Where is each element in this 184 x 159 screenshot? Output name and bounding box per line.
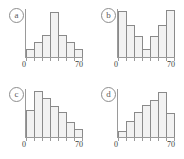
bar <box>74 129 83 137</box>
panel-label-d: d <box>101 87 116 102</box>
x-tick-label-min: 0 <box>22 140 26 150</box>
x-tick-labels-c: 070 <box>0 140 82 152</box>
histogram-panel-d: d070 <box>92 79 184 158</box>
histogram-panel-b: b070 <box>92 0 184 79</box>
plot-area-c <box>25 89 82 137</box>
plot-area-b <box>117 9 174 57</box>
x-tick-label-max: 70 <box>167 140 175 150</box>
x-tick-labels-b: 070 <box>92 60 174 72</box>
histogram-panel-a: a070 <box>0 0 92 79</box>
bar-series-b <box>118 9 174 57</box>
x-tick-label-min: 0 <box>114 140 118 150</box>
plot-area-d <box>117 89 174 137</box>
bar-series-d <box>118 89 174 137</box>
x-tick-label-min: 0 <box>114 60 118 70</box>
bar <box>166 10 175 57</box>
x-tick-labels-a: 070 <box>0 60 82 72</box>
plot-area-a <box>25 9 82 57</box>
bar <box>166 113 175 137</box>
x-tick-label-max: 70 <box>75 60 83 70</box>
bar-series-a <box>26 9 82 57</box>
bar-series-c <box>26 89 82 137</box>
panel-label-b: b <box>101 8 116 23</box>
x-tick-labels-d: 070 <box>92 140 174 152</box>
x-tick-label-max: 70 <box>75 140 83 150</box>
panel-label-a: a <box>9 8 24 23</box>
x-tick-label-min: 0 <box>22 60 26 70</box>
histogram-panel-figure: a070b070c070d070 <box>0 0 184 159</box>
panel-label-c: c <box>9 87 24 102</box>
x-tick-label-max: 70 <box>167 60 175 70</box>
histogram-panel-c: c070 <box>0 79 92 158</box>
bar <box>74 49 83 57</box>
